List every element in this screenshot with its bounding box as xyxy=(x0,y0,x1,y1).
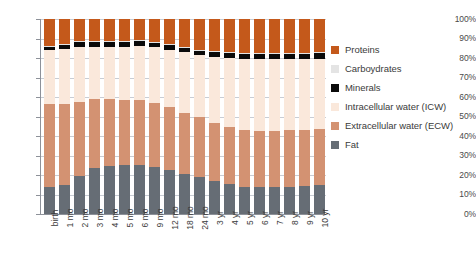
bar-segment-minerals xyxy=(284,54,295,59)
legend-swatch-icon xyxy=(331,103,339,111)
bar-segment-fat xyxy=(224,184,235,214)
bar-segment-carbohydrates xyxy=(164,44,175,45)
bar-segment-proteins xyxy=(164,19,175,44)
bar-segment-ecw xyxy=(89,99,100,168)
bar-segment-proteins xyxy=(59,19,70,44)
bar-segment-ecw xyxy=(224,127,235,185)
bar-segment-proteins xyxy=(119,19,130,41)
legend-label: Proteins xyxy=(345,44,379,55)
y-tick-label: 10% xyxy=(442,190,476,199)
bar-segment-carbohydrates xyxy=(254,53,265,54)
bar-segment-minerals xyxy=(149,43,160,48)
x-tick-label: 18 mo xyxy=(179,216,190,266)
x-tick-label: 3 mo xyxy=(89,216,100,266)
x-tick-label: 4 yr xyxy=(224,216,235,266)
bar-segment-carbohydrates xyxy=(74,41,85,42)
y-tick-label: 100% xyxy=(442,15,476,24)
bar-column xyxy=(74,19,85,214)
legend-swatch-icon xyxy=(331,46,339,54)
bar-segment-carbohydrates xyxy=(224,52,235,53)
x-tick-label: 5 mo xyxy=(119,216,130,266)
bar-segment-proteins xyxy=(194,19,205,50)
bar-segment-proteins xyxy=(149,19,160,42)
bar-column xyxy=(44,19,55,214)
bar-segment-carbohydrates xyxy=(59,44,70,45)
bar-column xyxy=(239,19,250,214)
bar-segment-icw xyxy=(299,59,310,130)
bar-segment-fat xyxy=(239,187,250,214)
bar-segment-minerals xyxy=(164,45,175,49)
bar-segment-proteins xyxy=(239,19,250,53)
x-tick-label: 1 mo xyxy=(59,216,70,266)
bar-column xyxy=(254,19,265,214)
legend-label: Extracellular water (ECW) xyxy=(345,120,453,131)
bar-segment-icw xyxy=(149,47,160,103)
bar-segment-icw xyxy=(314,59,325,129)
legend-swatch-icon xyxy=(331,122,339,130)
bar-segment-ecw xyxy=(194,117,205,177)
bar-segment-proteins xyxy=(44,19,55,46)
bar-segment-minerals xyxy=(299,53,310,58)
legend-item: Minerals xyxy=(331,78,475,97)
bar-segment-carbohydrates xyxy=(209,51,220,52)
bar-segment-carbohydrates xyxy=(194,50,205,51)
bar-segment-carbohydrates xyxy=(314,52,325,53)
legend-label: Fat xyxy=(345,139,359,150)
legend-swatch-icon xyxy=(331,84,339,92)
bar-segment-carbohydrates xyxy=(104,41,115,42)
legend-label: Carboydrates xyxy=(345,63,401,74)
bar-segment-proteins xyxy=(224,19,235,52)
bar-segment-proteins xyxy=(104,19,115,41)
bar-segment-proteins xyxy=(284,19,295,53)
bar-segment-fat xyxy=(284,187,295,214)
bar-segment-minerals xyxy=(314,53,325,59)
y-tick-label: 20% xyxy=(442,171,476,180)
bar-segment-carbohydrates xyxy=(89,41,100,42)
bar-segment-proteins xyxy=(299,19,310,53)
bar-segment-minerals xyxy=(209,52,220,57)
bar-segment-carbohydrates xyxy=(179,47,190,48)
bar-segment-proteins xyxy=(89,19,100,41)
bar-segment-ecw xyxy=(164,107,175,170)
x-tick-label: 9 yr xyxy=(299,216,310,266)
x-tick-label: 9 mo xyxy=(149,216,160,266)
x-tick-label: 24 mo xyxy=(194,216,205,266)
bar-segment-minerals xyxy=(239,54,250,59)
bar-column xyxy=(179,19,190,214)
bar-segment-carbohydrates xyxy=(149,42,160,43)
bar-segment-icw xyxy=(209,57,220,123)
body-composition-stacked-bar-chart: 0%10%20%30%40%50%60%70%80%90%100% birth1… xyxy=(0,0,476,269)
bar-column xyxy=(59,19,70,214)
bar-segment-proteins xyxy=(209,19,220,51)
bar-segment-fat xyxy=(134,165,145,214)
x-tick-label: 7 yr xyxy=(269,216,280,266)
bar-segment-carbohydrates xyxy=(134,40,145,41)
chart-legend: ProteinsCarboydratesMineralsIntracellula… xyxy=(331,40,475,154)
bar-segment-icw xyxy=(254,59,265,131)
x-tick-label: birth xyxy=(44,216,55,266)
bar-column xyxy=(164,19,175,214)
y-tick-label: 0% xyxy=(442,210,476,219)
x-tick-label: 5 yr xyxy=(239,216,250,266)
bar-segment-minerals xyxy=(134,41,145,46)
bar-segment-minerals xyxy=(89,42,100,47)
legend-item: Fat xyxy=(331,135,475,154)
bar-segment-ecw xyxy=(269,131,280,188)
bar-segment-ecw xyxy=(179,113,190,174)
x-tick-label: 8 yr xyxy=(284,216,295,266)
legend-item: Carboydrates xyxy=(331,59,475,78)
bar-segment-icw xyxy=(224,58,235,127)
bar-segment-icw xyxy=(269,59,280,131)
bar-segment-proteins xyxy=(134,19,145,40)
bar-segment-minerals xyxy=(59,45,70,49)
bar-segment-carbohydrates xyxy=(299,53,310,54)
bar-segment-proteins xyxy=(254,19,265,53)
bar-segment-icw xyxy=(89,47,100,99)
bar-segment-ecw xyxy=(314,129,325,185)
bar-segment-carbohydrates xyxy=(44,46,55,47)
bar-column xyxy=(269,19,280,214)
bar-column xyxy=(194,19,205,214)
bar-segment-icw xyxy=(164,50,175,108)
bar-column xyxy=(209,19,220,214)
bar-segment-fat xyxy=(104,166,115,214)
